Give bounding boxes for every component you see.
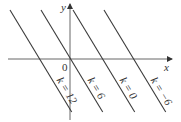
diagram: x y 0 k = 12k = 6k = 0k = −6 <box>0 0 181 122</box>
level-lines: k = 12k = 6k = 0k = −6 <box>10 10 175 112</box>
level-line-label: k = 6 <box>86 75 109 102</box>
y-axis-label: y <box>60 1 66 13</box>
level-line-label: k = 0 <box>118 75 141 102</box>
origin-label: 0 <box>62 61 68 73</box>
x-axis-label: x <box>163 61 169 73</box>
